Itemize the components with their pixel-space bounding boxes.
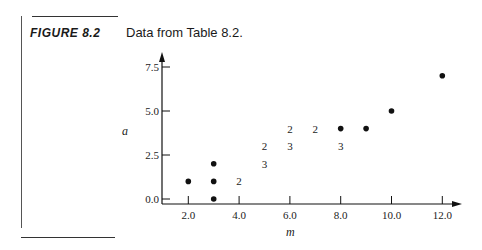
data-point-dot	[363, 126, 369, 132]
data-point-dot	[186, 179, 192, 185]
data-point-dot	[338, 126, 344, 132]
data-point-count: 2	[287, 123, 293, 135]
y-tick-label: 5.0	[145, 105, 159, 117]
data-point-dot	[211, 196, 217, 202]
data-point-count: 2	[313, 123, 319, 135]
data-point-count: 3	[262, 158, 268, 170]
data-points: 2323223	[186, 73, 446, 202]
data-point-dot	[211, 179, 217, 185]
y-tick-label: 0.0	[145, 193, 159, 205]
x-tick-label: 6.0	[283, 209, 297, 221]
data-point-count: 2	[262, 140, 268, 152]
scatter-chart: 0.02.55.07.52.04.06.08.010.012.0 2323223…	[0, 0, 482, 250]
y-axis-arrow-icon	[159, 52, 165, 62]
x-tick-label: 10.0	[382, 209, 402, 221]
data-point-count: 2	[236, 175, 242, 187]
data-point-dot	[211, 161, 217, 167]
ticks: 0.02.55.07.52.04.06.08.010.012.0	[145, 61, 452, 221]
x-axis-arrow-icon	[452, 201, 462, 207]
axes	[159, 52, 462, 207]
data-point-count: 3	[338, 140, 344, 152]
x-tick-label: 12.0	[433, 209, 453, 221]
data-point-dot	[389, 108, 395, 114]
data-point-dot	[440, 73, 446, 79]
x-axis-label: m	[286, 225, 295, 239]
x-tick-label: 4.0	[232, 209, 246, 221]
y-tick-label: 7.5	[145, 61, 159, 73]
y-tick-label: 2.5	[145, 149, 159, 161]
data-point-count: 3	[287, 140, 293, 152]
y-axis-label: a	[122, 124, 128, 138]
x-tick-label: 2.0	[181, 209, 195, 221]
x-tick-label: 8.0	[334, 209, 348, 221]
